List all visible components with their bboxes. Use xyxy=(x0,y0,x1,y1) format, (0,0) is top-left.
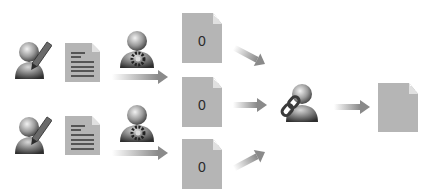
reviewer-user-gear-icon xyxy=(118,102,156,144)
merger-user-link-icon xyxy=(278,80,322,124)
document-number: 0 xyxy=(182,33,222,49)
output-document-icon xyxy=(378,83,418,132)
arrow-right-icon xyxy=(112,146,168,160)
text-document-icon xyxy=(65,116,100,155)
document-number: 0 xyxy=(182,159,222,175)
author-user-pencil-icon xyxy=(12,112,52,156)
arrow-right-icon xyxy=(112,70,168,84)
arrow-up-right-icon xyxy=(232,148,268,172)
author-user-pencil-icon xyxy=(12,37,52,81)
reviewer-user-gear-icon xyxy=(118,28,156,70)
arrow-down-right-icon xyxy=(232,44,268,68)
arrow-right-icon xyxy=(233,98,267,112)
arrow-right-icon xyxy=(334,100,370,114)
numbered-document-icon: 0 xyxy=(182,139,222,189)
numbered-document-icon: 0 xyxy=(182,13,222,63)
text-document-icon xyxy=(65,43,100,82)
document-number: 0 xyxy=(182,97,222,113)
numbered-document-icon: 0 xyxy=(182,77,222,127)
